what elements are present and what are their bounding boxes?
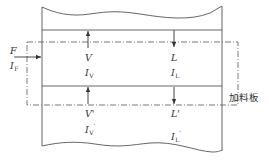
bottom-break-edge <box>42 142 222 152</box>
feed-flow-label: F <box>9 45 17 56</box>
vapor-enthalpy-label: IV <box>84 67 94 79</box>
distillation-column-diagram: F IF V IV L IL V' IV' L' IL' 加料板 <box>0 0 269 168</box>
feed-plate-label: 加料板 <box>229 92 259 103</box>
feed-plate-control-boundary <box>27 42 238 105</box>
liquid-prime-flow-label: L' <box>170 108 180 119</box>
vapor-prime-flow-label: V' <box>85 108 94 119</box>
liquid-prime-enthalpy-label: IL' <box>170 129 181 143</box>
vapor-flow-label: V <box>85 52 93 63</box>
liquid-enthalpy-label: IL <box>170 67 179 79</box>
liquid-flow-label: L <box>170 52 177 63</box>
feed-enthalpy-label: IF <box>9 60 18 72</box>
column-shell <box>42 6 222 152</box>
top-break-edge <box>42 6 222 18</box>
vapor-prime-enthalpy-label: IV' <box>84 122 96 136</box>
